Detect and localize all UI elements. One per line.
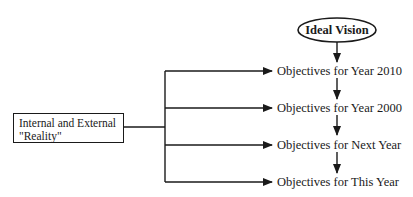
objective-next-year: Objectives for Next Year xyxy=(277,138,401,152)
reality-line-1: Internal and External xyxy=(19,117,123,130)
objective-year-2010: Objectives for Year 2010 xyxy=(277,64,402,78)
ideal-vision-label: Ideal Vision xyxy=(297,18,377,42)
reality-line-2: "Reality" xyxy=(19,130,123,143)
objective-year-2000: Objectives for Year 2000 xyxy=(277,101,402,115)
objective-this-year: Objectives for This Year xyxy=(277,175,399,189)
reality-box: Internal and External "Reality" xyxy=(13,113,124,143)
